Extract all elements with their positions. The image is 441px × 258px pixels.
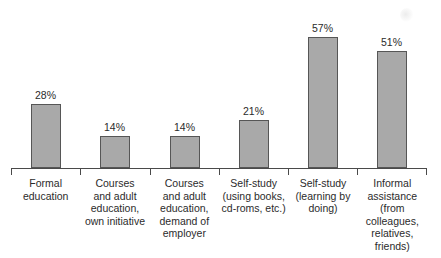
- x-axis-category-label-line: education: [12, 190, 79, 203]
- x-axis-category-label-line: (learning by: [289, 190, 356, 203]
- x-axis-category-label-line: colleagues,: [359, 215, 426, 228]
- bar-value-label: 14%: [174, 121, 195, 133]
- x-axis-tick: [219, 169, 220, 175]
- bar-value-label: 57%: [312, 22, 333, 34]
- x-axis-category-label-line: assistance: [359, 190, 426, 203]
- x-axis-category-label-line: and adult: [81, 190, 148, 203]
- bar-value-label: 51%: [381, 36, 402, 48]
- bar-value-label: 14%: [104, 121, 125, 133]
- x-axis-tick: [357, 169, 358, 175]
- x-axis-category-label-line: Self-study: [289, 177, 356, 190]
- x-axis-tick: [80, 169, 81, 175]
- bar[interactable]: [308, 37, 338, 168]
- x-axis-category-label: Informalassistance(fromcolleagues,relati…: [358, 177, 427, 253]
- x-axis-tick: [426, 169, 427, 175]
- x-axis-category-label-line: doing): [289, 202, 356, 215]
- x-axis-category-label-line: (from: [359, 202, 426, 215]
- bar-chart: 28% 14% 14% 21% 57% 51% Formaleducati: [0, 0, 441, 258]
- bar-slot: 14%: [80, 0, 149, 170]
- x-axis-category-label-line: education,: [151, 202, 218, 215]
- x-axis-category-label-line: (using books,: [220, 190, 287, 203]
- bar[interactable]: [100, 136, 130, 168]
- bar[interactable]: [170, 136, 200, 168]
- bar-slot: 57%: [288, 0, 357, 170]
- bar-slot: 28%: [11, 0, 80, 170]
- x-axis-category-label-line: Self-study: [220, 177, 287, 190]
- bar-value-label: 28%: [35, 89, 56, 101]
- x-axis-category-label-line: Courses: [151, 177, 218, 190]
- bar-slot: 14%: [150, 0, 219, 170]
- bar-slot: 21%: [219, 0, 288, 170]
- x-axis-category-label-line: friends): [359, 240, 426, 253]
- bar[interactable]: [377, 51, 407, 168]
- x-axis-category-label: Self-study(using books,cd-roms, etc.): [219, 177, 288, 253]
- bar[interactable]: [239, 120, 269, 168]
- x-axis-category-label-line: cd-roms, etc.): [220, 202, 287, 215]
- x-axis-category-label: Self-study(learning bydoing): [288, 177, 357, 253]
- bar-value-label: 21%: [243, 105, 264, 117]
- x-axis-tick: [11, 169, 12, 175]
- x-axis-category-label: Formaleducation: [11, 177, 80, 253]
- x-axis-category-labels: Formaleducation Coursesand adulteducatio…: [11, 177, 427, 253]
- bar-slot: 51%: [357, 0, 426, 170]
- x-axis-category-label: Coursesand adulteducation,own initiative: [80, 177, 149, 253]
- x-axis-category-label-line: Formal: [12, 177, 79, 190]
- plot-area: 28% 14% 14% 21% 57% 51%: [0, 0, 441, 170]
- x-axis-category-label-line: Courses: [81, 177, 148, 190]
- x-axis-category-label-line: relatives,: [359, 227, 426, 240]
- x-axis-category-label: Coursesand adulteducation,demand ofemplo…: [150, 177, 219, 253]
- x-axis-category-label-line: and adult: [151, 190, 218, 203]
- x-axis-category-label-line: Informal: [359, 177, 426, 190]
- x-axis-category-label-line: demand of: [151, 215, 218, 228]
- x-axis-tick: [150, 169, 151, 175]
- x-axis-tick: [288, 169, 289, 175]
- x-axis-category-label-line: education,: [81, 202, 148, 215]
- x-axis-category-label-line: own initiative: [81, 215, 148, 228]
- x-axis-category-label-line: employer: [151, 227, 218, 240]
- bar[interactable]: [31, 104, 61, 168]
